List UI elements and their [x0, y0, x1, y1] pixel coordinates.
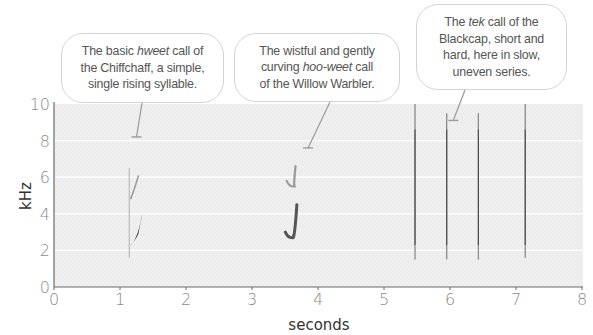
plot-area — [54, 90, 583, 287]
y-tick-label: 8 — [40, 132, 50, 151]
callout-willow-warbler-text: The wistful and gentlycurving hoo-weet c… — [259, 43, 374, 93]
callout-line: The wistful and gently — [259, 43, 374, 60]
x-tick-label: 0 — [49, 290, 59, 309]
callout-chiffchaff-text: The basic hweet call ofthe Chiffchaff, a… — [80, 43, 204, 93]
y-tick-label: 2 — [40, 241, 50, 260]
y-tick-label: 0 — [40, 278, 50, 297]
x-tick-label: 2 — [181, 290, 191, 309]
callout-blackcap-text: The tek call of theBlackcap, short andha… — [439, 14, 544, 80]
callout-line: Blackcap, short and — [439, 31, 544, 48]
x-tick-label: 6 — [445, 290, 455, 309]
callout-line: the Chiffchaff, a simple, — [80, 60, 204, 77]
callout-line: of the Willow Warbler. — [259, 76, 374, 93]
y-tick-label: 6 — [40, 168, 50, 187]
callout-line: hard, here in slow, — [439, 47, 544, 64]
callout-chiffchaff: The basic hweet call ofthe Chiffchaff, a… — [61, 33, 224, 103]
callout-line: single rising syllable. — [80, 76, 204, 93]
callout-line: The basic hweet call of — [80, 43, 204, 60]
x-tick-label: 7 — [511, 290, 521, 309]
callout-blackcap: The tek call of theBlackcap, short andha… — [416, 4, 567, 90]
x-tick-label: 1 — [115, 290, 125, 309]
y-tick-label: 10 — [30, 95, 50, 114]
x-axis-title: seconds — [288, 316, 349, 334]
callout-line: curving hoo-weet call — [259, 59, 374, 76]
y-tick-label: 4 — [40, 205, 50, 224]
x-tick-label: 5 — [379, 290, 389, 309]
callout-line: uneven series. — [439, 64, 544, 81]
y-axis-title: kHz — [17, 182, 35, 210]
callout-willow-warbler: The wistful and gentlycurving hoo-weet c… — [234, 33, 400, 102]
plot-background — [54, 104, 583, 287]
callout-line: The tek call of the — [439, 14, 544, 31]
x-tick-label: 3 — [247, 290, 257, 309]
x-tick-label: 8 — [577, 290, 587, 309]
x-tick-label: 4 — [313, 290, 323, 309]
